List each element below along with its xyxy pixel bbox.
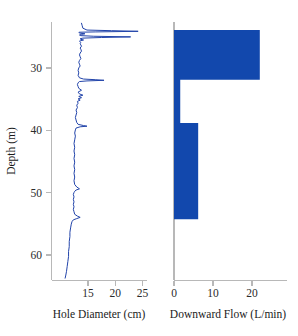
depth-tick-label-40: 40 <box>31 124 43 136</box>
depth-tick-label-30: 30 <box>31 62 43 74</box>
left-x-axis-ticks <box>88 281 143 286</box>
depth-tick-label-60: 60 <box>31 249 43 261</box>
depth-tick-label-50: 50 <box>31 187 43 199</box>
right-x-axis-ticks <box>174 281 252 286</box>
depth-axis-tick-labels: 30 40 50 60 <box>31 62 43 261</box>
right-xtick-label-20: 20 <box>246 287 258 299</box>
right-x-axis-title: Downward Flow (L/min) <box>170 308 286 321</box>
borehole-logs-chart: 30 40 50 60 Depth (m) 15 20 25 Hole Diam… <box>0 0 298 336</box>
left-xtick-label-15: 15 <box>82 287 94 299</box>
figure-container: 30 40 50 60 Depth (m) 15 20 25 Hole Diam… <box>0 0 298 336</box>
right-x-axis-tick-labels: 0 10 20 <box>171 287 258 299</box>
left-x-axis-title: Hole Diameter (cm) <box>53 308 146 321</box>
left-panel-caliper-log: 30 40 50 60 Depth (m) 15 20 25 Hole Diam… <box>5 22 149 321</box>
depth-axis-ticks <box>46 68 52 255</box>
left-xtick-label-20: 20 <box>110 287 122 299</box>
depth-axis-title: Depth (m) <box>5 127 18 175</box>
downward-flow-area <box>174 22 260 280</box>
right-xtick-label-10: 10 <box>207 287 219 299</box>
right-panel-flow-log: 0 10 20 Downward Flow (L/min) <box>170 22 287 321</box>
hole-diameter-trace <box>65 23 138 278</box>
left-xtick-label-25: 25 <box>137 287 149 299</box>
left-x-axis-tick-labels: 15 20 25 <box>82 287 148 299</box>
right-xtick-label-0: 0 <box>171 287 177 299</box>
